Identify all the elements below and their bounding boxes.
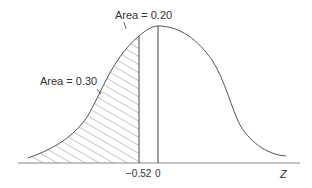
axis-label-z: Z xyxy=(280,169,287,180)
normal-curve xyxy=(28,26,286,158)
label-left-area: Area = 0.30 xyxy=(40,76,97,87)
label-middle-area: Area = 0.20 xyxy=(115,10,172,21)
tick-label-zero: 0 xyxy=(155,169,161,179)
normal-curve-diagram xyxy=(0,0,312,188)
leader-line-middle xyxy=(124,22,126,29)
shaded-area-left xyxy=(20,20,140,165)
tick-label-neg052: −0.52 xyxy=(126,169,151,179)
